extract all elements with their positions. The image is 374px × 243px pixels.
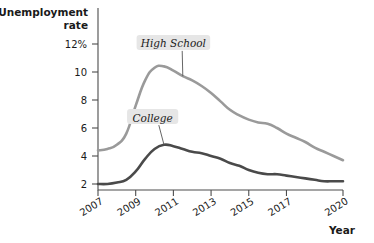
callout-leader-high-school — [182, 51, 183, 76]
y-axis-title-line2: rate — [64, 19, 88, 31]
y-axis-title-line1: Unemployment — [0, 6, 88, 18]
unemployment-rate-chart: Unemployment rate Year 12%108642 2007200… — [0, 0, 374, 243]
y-tick-label: 2 — [81, 179, 87, 190]
axis-lines — [98, 8, 343, 190]
x-tick-label: 2020 — [323, 195, 350, 218]
x-tick-label: 2007 — [78, 195, 105, 218]
y-tick-label: 10 — [74, 67, 87, 78]
x-tick-label: 2015 — [228, 195, 255, 218]
y-tick-label: 8 — [81, 95, 87, 106]
callout-label-high-school: High School — [140, 37, 206, 49]
y-tick-label: 4 — [81, 151, 87, 162]
x-tick-label: 2017 — [266, 195, 293, 218]
callout-leader-college — [159, 125, 164, 145]
x-axis-ticks: 2007200920112013201520172020 — [78, 190, 350, 218]
callout-label-college: College — [133, 112, 173, 124]
chart-canvas: Unemployment rate Year 12%108642 2007200… — [0, 0, 374, 243]
series-lines — [98, 66, 343, 184]
series-line-college — [98, 145, 343, 185]
x-tick-label: 2011 — [153, 195, 180, 218]
y-tick-label: 12% — [65, 39, 87, 50]
y-tick-label: 6 — [81, 123, 87, 134]
x-tick-label: 2013 — [191, 195, 218, 218]
x-axis-title: Year — [328, 224, 356, 236]
x-tick-label: 2009 — [115, 195, 142, 218]
y-axis-ticks: 12%108642 — [65, 39, 98, 190]
series-callouts: High SchoolCollege — [127, 35, 210, 145]
